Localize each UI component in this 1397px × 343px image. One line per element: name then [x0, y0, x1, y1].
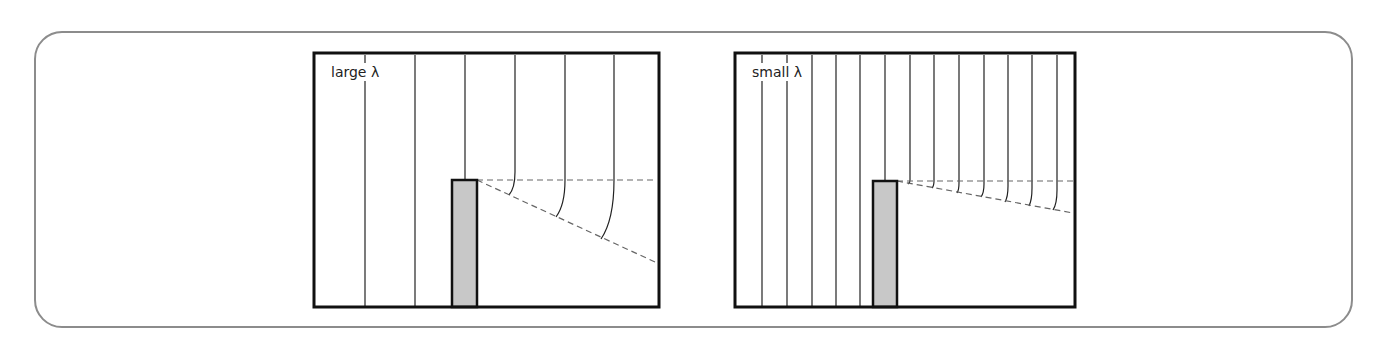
panel-small-wavelength	[735, 53, 1075, 307]
diffracted-wavefront	[556, 55, 565, 217]
panel-label-small-wavelength: small λ	[750, 63, 804, 81]
incident-wavefronts	[762, 55, 885, 306]
diffracted-wavefront	[957, 55, 959, 193]
diffracted-wavefront	[601, 55, 614, 239]
incident-wavefronts	[365, 55, 465, 306]
diffracted-wavefront	[1005, 55, 1008, 202]
panel-border	[735, 53, 1075, 307]
barrier	[452, 180, 477, 307]
diffraction-boundary-line	[897, 181, 1073, 213]
shadow-boundary-lines	[477, 180, 657, 262]
shadow-boundary-lines	[897, 181, 1074, 213]
diffracted-wavefront	[509, 55, 515, 195]
diffracted-wavefront	[1029, 55, 1032, 206]
diffracted-wavefronts	[509, 55, 614, 239]
diffracted-wavefront	[1053, 55, 1057, 210]
panel-label-large-wavelength: large λ	[329, 63, 381, 81]
diffracted-wavefront	[908, 55, 910, 184]
panel-large-wavelength	[314, 53, 659, 307]
diffraction-boundary-line	[477, 180, 655, 262]
diffraction-diagram	[0, 0, 1397, 343]
barrier	[873, 181, 897, 307]
diffracted-wavefront	[932, 55, 934, 188]
diffracted-wavefront	[981, 55, 984, 197]
